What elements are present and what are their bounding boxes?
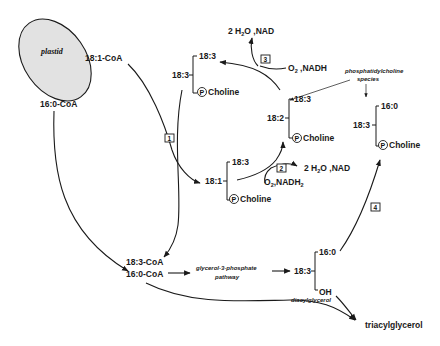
svg-text:18:3: 18:3 (232, 157, 249, 167)
step-4-badge: 4 (371, 203, 380, 211)
svg-text:4: 4 (374, 204, 378, 211)
svg-text:16:0: 16:0 (381, 101, 398, 111)
arrow-step3-main (220, 62, 280, 90)
arrow-pc-to-183coa (164, 90, 182, 257)
coa-16-0-pool-label: 16:0-CoA (126, 269, 163, 279)
step2-substrates: O2,NADH2 (264, 177, 304, 188)
svg-text:18:1: 18:1 (205, 176, 222, 186)
arrow-step3-out (251, 38, 258, 66)
step-3-badge: 3 (261, 55, 270, 63)
lipid-pathway-diagram: plastid 18:1-CoA 16:0-CoA 1 18:3 18:3 P … (0, 0, 440, 346)
diagram-canvas: plastid 18:1-CoA 16:0-CoA 1 18:3 18:3 P … (0, 0, 440, 346)
step3-substrates: O2 ,NADH (288, 63, 327, 74)
svg-text:2: 2 (280, 165, 284, 172)
diacylglycerol: 16:0 18:3 OH diacylglycerol (291, 247, 336, 303)
plastid-label: plastid (40, 47, 64, 56)
svg-text:Choline: Choline (208, 87, 239, 97)
arrow-step3-in (260, 66, 286, 69)
pc-182-183: 18:3 18:2 P Choline (267, 94, 334, 143)
svg-text:Choline: Choline (389, 140, 420, 150)
svg-text:18:3: 18:3 (294, 266, 311, 276)
pc-species-label-1: phosphatidylcholine (344, 68, 404, 74)
svg-text:16:0: 16:0 (319, 247, 336, 257)
g3p-label-2: pathway (214, 274, 240, 280)
svg-text:P: P (381, 142, 386, 149)
step3-products: 2 H2O ,NAD (228, 26, 274, 37)
pc-181-183: 18:3 18:1 P Choline (205, 157, 271, 204)
pc-160-183: 16:0 18:3 P Choline (353, 101, 420, 150)
svg-text:18:3: 18:3 (172, 70, 189, 80)
arrow-181coa-to-pc181 (128, 64, 200, 183)
coa-18-1-label: 18:1-CoA (85, 53, 122, 63)
arrow-dag-to-tag (336, 296, 356, 320)
svg-text:1: 1 (168, 135, 172, 142)
svg-text:Choline: Choline (303, 133, 334, 143)
step-2-badge: 2 (277, 164, 286, 172)
svg-text:P: P (232, 196, 237, 203)
svg-text:18:3: 18:3 (199, 51, 216, 61)
svg-text:P: P (200, 89, 205, 96)
tag-label: triacylglycerol (365, 320, 423, 330)
svg-text:OH: OH (319, 287, 332, 297)
arrow-160coa-to-pool (54, 111, 128, 271)
svg-text:3: 3 (264, 56, 268, 63)
coa-18-3-label: 18:3-CoA (126, 257, 163, 267)
svg-text:18:2: 18:2 (267, 113, 284, 123)
g3p-label-1: glycerol-3-phosphate (195, 265, 257, 271)
pointer-pc-182 (290, 80, 350, 100)
svg-text:18:3: 18:3 (353, 120, 370, 130)
coa-16-0-label: 16:0-CoA (40, 99, 77, 109)
svg-text:P: P (295, 135, 300, 142)
step2-products: 2 H2O ,NAD (304, 163, 350, 174)
pc-species-label-2: species (357, 76, 380, 82)
step-1-badge: 1 (165, 134, 174, 142)
svg-text:Choline: Choline (240, 194, 271, 204)
